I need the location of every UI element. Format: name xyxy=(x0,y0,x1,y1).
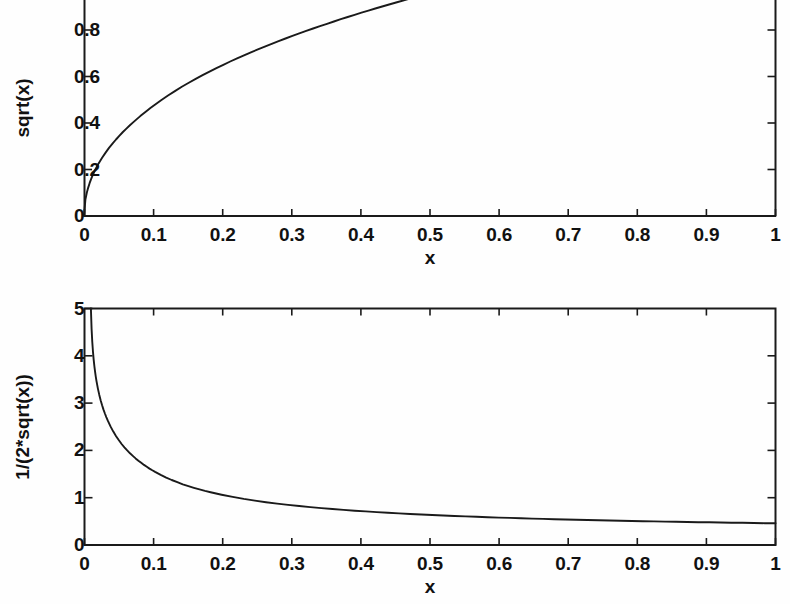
bottom-xtick-0.7: 0.7 xyxy=(555,553,581,575)
bottom-xtick-0.9: 0.9 xyxy=(693,553,719,575)
page-canvas: 0.8 0.6 0.4 0.2 0 0 0.1 0.2 0.3 0.4 0.5 … xyxy=(0,0,790,604)
top-plot-yticks xyxy=(84,30,776,216)
bottom-xtick-0.6: 0.6 xyxy=(486,553,512,575)
top-xtick-0.6: 0.6 xyxy=(486,224,512,246)
inverse-sqrt-curve xyxy=(91,309,776,524)
bottom-ytick-5: 5 xyxy=(74,298,84,320)
bottom-plot-xticks xyxy=(85,309,776,546)
figure-container: 0.8 0.6 0.4 0.2 0 0 0.1 0.2 0.3 0.4 0.5 … xyxy=(0,0,790,604)
plot-vector-layer xyxy=(0,0,790,604)
bottom-plot-axes xyxy=(85,309,776,546)
top-xtick-0.2: 0.2 xyxy=(210,224,236,246)
bottom-xtick-0: 0 xyxy=(79,553,89,575)
bottom-ytick-1: 1 xyxy=(74,487,84,509)
top-xtick-0: 0 xyxy=(79,224,89,246)
sqrt-curve xyxy=(84,0,410,216)
top-plot-ylabel: sqrt(x) xyxy=(12,78,34,137)
top-xtick-0.8: 0.8 xyxy=(624,224,650,246)
top-xtick-0.1: 0.1 xyxy=(141,224,167,246)
bottom-xtick-1: 1 xyxy=(770,553,780,575)
bottom-plot-yticks xyxy=(85,309,776,546)
bottom-ytick-3: 3 xyxy=(74,392,84,414)
bottom-ytick-4: 4 xyxy=(74,345,84,367)
top-xtick-0.5: 0.5 xyxy=(417,224,443,246)
top-ytick-0.2: 0.2 xyxy=(74,159,100,181)
top-xtick-0.7: 0.7 xyxy=(555,224,581,246)
bottom-xtick-0.1: 0.1 xyxy=(141,553,167,575)
bottom-xtick-0.3: 0.3 xyxy=(279,553,305,575)
top-ytick-0.4: 0.4 xyxy=(74,112,100,134)
top-plot-axes xyxy=(84,0,776,217)
top-xtick-0.3: 0.3 xyxy=(279,224,305,246)
bottom-xtick-0.2: 0.2 xyxy=(210,553,236,575)
bottom-xtick-0.8: 0.8 xyxy=(624,553,650,575)
bottom-ytick-2: 2 xyxy=(74,439,84,461)
bottom-plot-ylabel: 1/(2*sqrt(x)) xyxy=(12,374,34,480)
top-ytick-0.8: 0.8 xyxy=(74,19,100,41)
top-xtick-0.9: 0.9 xyxy=(693,224,719,246)
top-xtick-1: 1 xyxy=(770,224,780,246)
bottom-xtick-0.4: 0.4 xyxy=(348,553,374,575)
top-ytick-0.6: 0.6 xyxy=(74,66,100,88)
top-plot-xticks xyxy=(85,209,776,216)
bottom-xtick-0.5: 0.5 xyxy=(417,553,443,575)
bottom-plot-xlabel: x xyxy=(425,576,436,598)
top-plot-xlabel: x xyxy=(425,247,436,269)
top-xtick-0.4: 0.4 xyxy=(348,224,374,246)
